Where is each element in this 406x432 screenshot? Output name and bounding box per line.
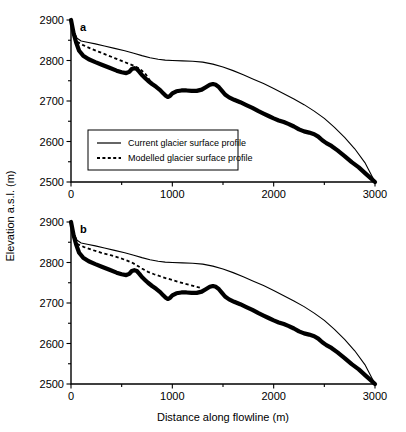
y-tick-label: 2600	[40, 136, 64, 148]
x-tick-label: 2000	[261, 188, 285, 200]
x-tick-label: 0	[68, 188, 74, 200]
legend-label-modelled: Modelled glacier surface profile	[128, 153, 253, 163]
legend-label-current: Current glacier surface profile	[128, 138, 246, 148]
y-tick-label: 2700	[40, 297, 64, 309]
y-tick-label: 2500	[40, 378, 64, 390]
y-tick-label: 2600	[40, 338, 64, 350]
x-tick-label: 3000	[363, 390, 387, 402]
y-tick-label: 2500	[40, 176, 64, 188]
x-tick-label: 1000	[160, 390, 184, 402]
figure-canvas: 250026002700280029000100020003000aCurren…	[0, 0, 406, 432]
x-tick-label: 0	[68, 390, 74, 402]
panel-b: 250026002700280029000100020003000b	[40, 216, 388, 402]
bed-profile-curve	[71, 222, 375, 384]
panel-label-a: a	[80, 21, 87, 33]
glacier-profile-figure: 250026002700280029000100020003000aCurren…	[0, 0, 406, 432]
current-surface-curve	[71, 222, 375, 384]
panel-a: 250026002700280029000100020003000aCurren…	[40, 14, 388, 200]
panel-label-b: b	[80, 223, 87, 235]
y-axis-title: Elevation a.s.l. (m)	[4, 170, 16, 261]
x-tick-label: 1000	[160, 188, 184, 200]
y-tick-label: 2800	[40, 257, 64, 269]
axis-frame	[71, 222, 375, 384]
x-tick-label: 3000	[363, 188, 387, 200]
legend-box	[88, 130, 238, 170]
y-tick-label: 2800	[40, 55, 64, 67]
x-tick-label: 2000	[261, 390, 285, 402]
x-axis-title: Distance along flowline (m)	[157, 411, 289, 423]
y-tick-label: 2700	[40, 95, 64, 107]
y-tick-label: 2900	[40, 14, 64, 26]
y-tick-label: 2900	[40, 216, 64, 228]
